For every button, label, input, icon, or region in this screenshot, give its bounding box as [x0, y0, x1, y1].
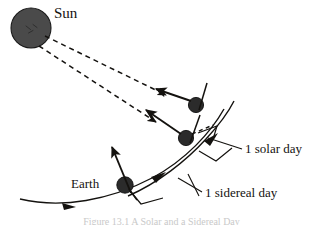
diagram-solar-sidereal-day: Sun Earth 1 solar day 1 sidereal day Fig…: [0, 0, 323, 225]
earth-axis-tail-sidereal: [190, 115, 200, 143]
sun-sightline-lower: [39, 46, 156, 122]
wedge-sidereal-span: [199, 148, 232, 161]
earth-label: Earth: [71, 177, 99, 190]
solar-day-label: 1 solar day: [245, 142, 302, 155]
reference-arrow-solar: [156, 89, 191, 101]
figure-caption: Figure 13.1 A Solar and a Sidereal Day: [0, 216, 323, 225]
leader-line-sidereal-day: [178, 178, 202, 192]
sun-body: [11, 8, 51, 48]
orbit-direction-arrow-1: [62, 203, 76, 210]
sun-label: Sun: [54, 6, 77, 21]
reference-arrow-sidereal: [146, 110, 181, 134]
leader-line-solar-day: [208, 138, 242, 149]
bracket-sidereal-day: [131, 192, 163, 204]
sidereal-day-label: 1 sidereal day: [205, 186, 277, 199]
sun-sightline-upper: [45, 36, 166, 95]
